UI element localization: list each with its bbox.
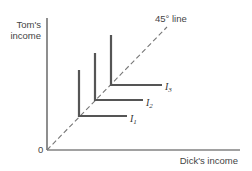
curve-i3 — [111, 35, 162, 85]
x-axis-label: Dick's income — [180, 155, 238, 166]
indifference-diagram: Tom's income Dick's income 0 45° line I1… — [0, 0, 252, 171]
curve-i2 — [95, 53, 143, 100]
curve-i2-label: I2 — [145, 97, 153, 110]
curve-i3-label: I3 — [164, 81, 172, 94]
curve-i1-label: I1 — [129, 113, 137, 126]
y-axis-label-line2: income — [10, 30, 41, 41]
y-axis-label-line1: Tom's — [16, 19, 41, 30]
origin-label: 0 — [38, 144, 43, 155]
diagonal-label: 45° line — [155, 13, 187, 24]
diagonal-45-line — [47, 27, 167, 150]
